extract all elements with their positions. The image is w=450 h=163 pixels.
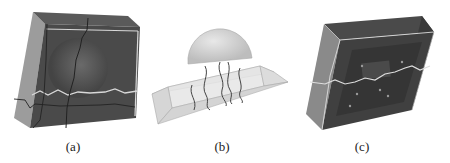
panel-label-b: (b) [202, 139, 242, 155]
block-a-illustration [0, 0, 150, 140]
panel-label-c: (c) [342, 139, 382, 155]
prism-b-illustration [140, 0, 300, 140]
panel-label-a: (a) [53, 139, 93, 155]
panel-c: (c) [300, 0, 450, 163]
panel-b: (b) [140, 0, 300, 163]
block-c-illustration [300, 0, 450, 140]
panel-a: (a) [0, 0, 150, 163]
